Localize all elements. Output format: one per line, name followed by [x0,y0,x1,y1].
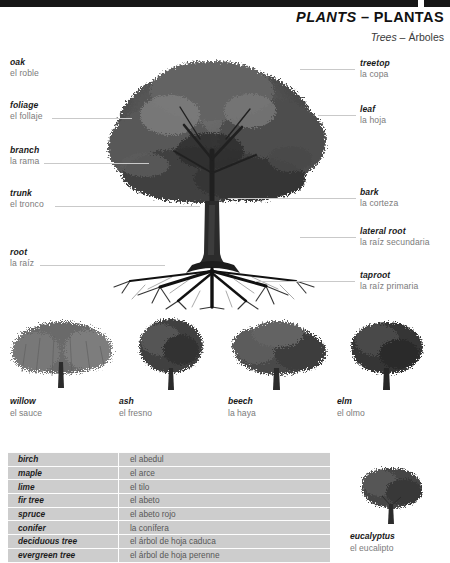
label-foliage-en: foliage [10,100,43,111]
leader-line-foliage [52,118,132,119]
page-title-dash: – [356,9,373,25]
vocabulary-table: birch el abedul maple el arce lime el ti… [8,452,330,563]
label-taproot: taproot la raíz primaria [360,270,418,293]
table-row: birch el abedul [8,452,330,467]
specimen-elm-illustration [333,316,445,394]
label-trunk-en: trunk [10,188,44,199]
specimen-label-willow: willow el sauce [10,396,42,419]
specimen-willow-es: el sauce [10,408,42,420]
label-lateral-root: lateral root la raíz secundaria [360,226,430,249]
label-leaf: leaf la hoja [360,104,386,127]
specimen-ash-illustration [115,316,227,394]
vocab-en: conifer [8,523,118,533]
specimen-elm-en: elm [337,396,365,408]
label-treetop-es: la copa [360,69,390,80]
page-title-en: PLANTS [296,9,356,25]
specimen-ash-en: ash [119,396,152,408]
vocab-es: el árbol de hoja perenne [118,550,330,560]
label-branch-es: la rama [10,156,39,167]
specimen-eucalyptus-en: eucalyptus [350,531,436,543]
table-row: evergreen tree el árbol de hoja perenne [8,549,330,563]
leader-line-root [40,265,165,266]
column-divider [118,453,119,466]
label-treetop-en: treetop [360,58,390,69]
leader-line-leaf [318,115,356,116]
specimen-willow-en: willow [10,396,42,408]
oak-canopy [108,61,326,203]
top-bar-segment-left [0,0,418,7]
label-treetop: treetop la copa [360,58,390,81]
label-root-en: root [10,247,34,258]
label-foliage-es: el follaje [10,111,43,122]
label-root: root la raíz [10,247,34,270]
eucalyptus-block: eucalyptus el eucalipto [350,466,436,554]
label-foliage: foliage el follaje [10,100,43,123]
table-row: deciduous tree el árbol de hoja caduca [8,535,330,549]
vocab-en: birch [8,454,118,464]
column-divider [118,494,119,507]
label-lateral-root-es: la raíz secundaria [360,237,430,248]
specimen-elm-es: el olmo [337,408,365,420]
label-leaf-en: leaf [360,104,386,115]
vocab-es: el arce [118,468,330,478]
label-oak: oak el roble [10,57,39,80]
page-title: PLANTS – PLANTAS [296,9,444,25]
leader-line-trunk [55,206,200,207]
label-taproot-en: taproot [360,270,418,281]
top-bar-segment-right [424,0,450,7]
specimen-beech-illustration [224,316,336,394]
label-root-es: la raíz [10,258,34,269]
vocab-en: deciduous tree [8,536,118,546]
label-taproot-es: la raíz primaria [360,281,418,292]
vocab-es: el árbol de hoja caduca [118,536,330,546]
label-trunk-es: el tronco [10,199,44,210]
top-dark-bar [0,0,450,7]
table-row: conifer la conífera [8,521,330,535]
column-divider [118,480,119,493]
leader-line-branch [44,163,149,164]
page-header: PLANTS – PLANTAS Trees – Árboles [296,9,444,43]
page-subtitle-dash: – [397,31,409,43]
column-divider [118,508,119,521]
leader-line-taproot [255,281,355,282]
page-title-es: PLANTAS [374,9,444,25]
leader-line-bark [228,198,356,199]
vocab-en: fir tree [8,495,118,505]
specimen-tree-row: willow el sauce ash el fresno [0,316,450,416]
table-row: lime el tilo [8,480,330,494]
specimen-label-beech: beech la haya [228,396,256,419]
vocab-en: evergreen tree [8,550,118,560]
specimen-ash-es: el fresno [119,408,152,420]
label-oak-es: el roble [10,68,39,79]
column-divider [118,535,119,548]
vocab-en: maple [8,468,118,478]
oak-tree-illustration [100,55,350,310]
specimen-label-ash: ash el fresno [119,396,152,419]
table-row: spruce el abeto rojo [8,508,330,522]
leader-line-treetop [300,69,355,70]
page-subtitle: Trees – Árboles [296,31,444,43]
specimen-beech-es: la haya [228,408,256,420]
page-subtitle-es: Árboles [408,31,444,43]
leader-line-lateral-root [300,237,356,238]
specimen-eucalyptus-es: el eucalipto [350,543,436,555]
table-row: maple el arce [8,467,330,481]
specimen-label-elm: elm el olmo [337,396,365,419]
label-trunk: trunk el tronco [10,188,44,211]
vocab-es: el abeto rojo [118,509,330,519]
vocab-en: lime [8,482,118,492]
specimen-eucalyptus-illustration [350,466,436,528]
specimen-willow-illustration [6,316,118,394]
column-divider [118,521,119,534]
label-leaf-es: la hoja [360,115,386,126]
vocab-es: el tilo [118,482,330,492]
column-divider [118,549,119,562]
vocab-es: la conífera [118,523,330,533]
vocab-en: spruce [8,509,118,519]
table-row: fir tree el abeto [8,494,330,508]
label-bark-es: la corteza [360,198,398,209]
label-oak-en: oak [10,57,39,68]
page-subtitle-en: Trees [371,31,397,43]
label-bark-en: bark [360,187,398,198]
